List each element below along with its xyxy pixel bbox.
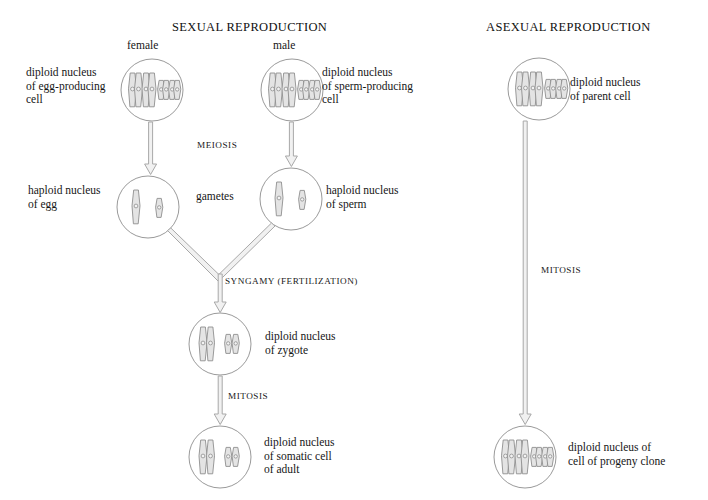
zygote-label: diploid nucleus of zygote [265, 330, 365, 357]
meiosis-arrow-male [285, 122, 297, 167]
somatic-cell-label: diploid nucleus of somatic cell of adult [264, 436, 369, 477]
syngamy-arm-left [168, 228, 223, 281]
syngamy-arm-right [219, 223, 275, 278]
haploid-egg-label: haploid nucleus of egg [28, 184, 123, 211]
female-label: female [127, 39, 158, 51]
progeny-clone-label: diploid nucleus of cell of progeny clone [568, 441, 708, 468]
syngamy-label: SYNGAMY (FERTILIZATION) [225, 276, 358, 286]
chromosome-set-sperm-parent [269, 73, 321, 107]
chromosome-set-somatic [199, 440, 239, 474]
gametes-label: gametes [196, 190, 234, 202]
chromosome-set-asexual-progeny [502, 440, 554, 474]
mitosis-label-asexual: MITOSIS [541, 265, 581, 275]
parent-cell-label: diploid nucleus of parent cell [570, 76, 685, 103]
mitosis-arrow-asexual [519, 121, 531, 425]
chromosome-set-zygote [199, 327, 239, 361]
male-label: male [273, 39, 295, 51]
chromosome-set-egg [132, 190, 163, 224]
sexual-reproduction-title: SEXUAL REPRODUCTION [172, 20, 327, 35]
sperm-producing-cell-label: diploid nucleus of sperm-producing cell [322, 66, 432, 107]
reproduction-diagram: SEXUAL REPRODUCTION ASEXUAL REPRODUCTION… [0, 0, 708, 500]
meiosis-arrow-female [145, 122, 157, 175]
mitosis-arrow-sexual [214, 376, 226, 425]
asexual-reproduction-title: ASEXUAL REPRODUCTION [486, 20, 651, 35]
chromosome-set-sperm [275, 182, 306, 216]
cell-circles [117, 58, 570, 488]
chromosome-set-egg-parent [129, 73, 181, 107]
haploid-sperm-label: haploid nucleus of sperm [326, 184, 426, 211]
meiosis-label: MEIOSIS [197, 140, 237, 150]
egg-producing-cell-label: diploid nucleus of egg-producing cell [26, 66, 121, 107]
chromosome-set-asexual-parent [516, 72, 568, 106]
mitosis-label-sexual: MITOSIS [228, 391, 268, 401]
